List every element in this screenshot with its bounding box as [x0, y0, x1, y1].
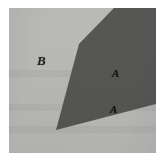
figure-plate: B A A [9, 8, 156, 153]
figure-root: B A A [0, 0, 164, 162]
scan-showthrough-band [9, 126, 156, 133]
region-a-polygon [9, 8, 156, 153]
region-label-a-upper: A [112, 68, 119, 79]
region-label-a-lower: A [110, 104, 117, 115]
region-label-b: B [37, 54, 46, 67]
